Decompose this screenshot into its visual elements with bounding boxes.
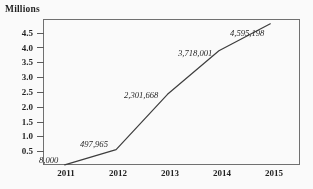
data-label-2011: 8,000: [39, 155, 58, 165]
line-chart-figure: Millions 4.5 4.0 3.5 3.0 2.5 2.0 1.5 1.0…: [0, 0, 313, 189]
data-label-2012: 497,965: [80, 139, 108, 149]
data-label-2015: 4,595,198: [230, 28, 264, 38]
data-label-2014: 3,718,001: [178, 48, 212, 58]
data-label-2013: 2,301,668: [124, 90, 158, 100]
